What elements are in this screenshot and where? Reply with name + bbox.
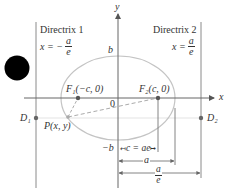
directrix-2-title: Directrix 2 xyxy=(153,25,197,35)
d1-label: D₁ xyxy=(20,113,31,123)
p-to-f1-dashed xyxy=(68,98,78,117)
p-label: P(x, y) xyxy=(44,121,71,131)
p-point xyxy=(66,115,70,119)
ae-den: e xyxy=(155,176,161,186)
f2-point xyxy=(156,96,160,100)
directrix-2-equation: x = a e xyxy=(172,36,195,57)
c-dimension-label: ↤c = ae↦ xyxy=(120,144,156,154)
origin-label: 0 xyxy=(110,99,115,109)
directrix-1-title: Directrix 1 xyxy=(40,25,84,35)
ae-dimension-label: a e xyxy=(155,165,162,185)
f1-point xyxy=(76,96,80,100)
b-top-label: b xyxy=(108,45,113,55)
ae-num: a xyxy=(155,165,162,176)
f1-label: F₁(−c, 0) xyxy=(66,84,103,94)
ellipse-directrix-diagram xyxy=(0,0,235,191)
black-dot-marker xyxy=(5,56,30,81)
directrix-1-eq-prefix: x = − xyxy=(40,42,63,52)
directrix-1-fraction: a e xyxy=(65,36,72,57)
c-dimension-text: c = ae xyxy=(126,143,150,153)
x-axis-label: x xyxy=(219,92,223,102)
directrix-2-fraction: a e xyxy=(188,36,195,57)
c-arrow-right: ↦ xyxy=(150,145,156,153)
f2-label: F₂(c, 0) xyxy=(139,84,170,94)
ae-fraction: a e xyxy=(155,165,162,185)
y-axis-label: y xyxy=(115,2,119,12)
directrix-2-eq-prefix: x = xyxy=(172,42,186,52)
b-bottom-label: −b xyxy=(102,143,114,153)
directrix-1-equation: x = − a e xyxy=(40,36,72,57)
d2-label: D₂ xyxy=(207,113,218,123)
directrix-2-den: e xyxy=(188,47,194,57)
directrix-1-den: e xyxy=(65,47,71,57)
d1-point xyxy=(34,116,38,120)
a-dimension-label: a xyxy=(143,155,150,165)
d2-point xyxy=(199,116,203,120)
